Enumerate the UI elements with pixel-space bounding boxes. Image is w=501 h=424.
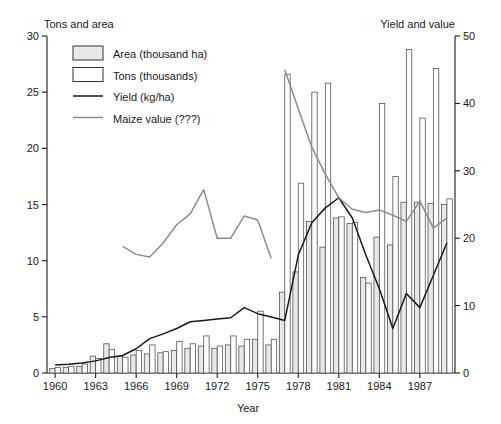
- bar-tons: [82, 364, 87, 373]
- bar-area: [387, 245, 392, 373]
- x-tick-label: 1966: [124, 380, 148, 392]
- bar-tons: [244, 339, 249, 373]
- bar-tons: [420, 118, 425, 373]
- bar-tons: [136, 351, 141, 373]
- x-tick-label: 1960: [43, 380, 67, 392]
- bar-area: [266, 345, 271, 373]
- legend-item-label: Yield (kg/ha): [113, 91, 174, 103]
- bar-area: [401, 202, 406, 373]
- bar-area: [131, 355, 136, 373]
- bar-tons: [231, 336, 236, 373]
- bar-tons: [352, 222, 357, 373]
- bar-area: [90, 356, 95, 373]
- right-tick-label: 10: [463, 300, 475, 312]
- bar-area: [360, 278, 365, 373]
- bar-area: [225, 345, 230, 373]
- bar-area: [158, 353, 163, 373]
- right-tick-label: 40: [463, 97, 475, 109]
- bar-tons: [393, 176, 398, 373]
- x-tick-label: 1984: [367, 380, 391, 392]
- bar-tons: [379, 103, 384, 373]
- right-tick-label: 20: [463, 232, 475, 244]
- bar-area: [144, 354, 149, 373]
- bar-area: [63, 367, 68, 373]
- x-tick-label: 1975: [246, 380, 270, 392]
- left-tick-label: 0: [33, 367, 39, 379]
- bar-tons: [447, 199, 452, 373]
- bar-tons: [325, 83, 330, 373]
- right-tick-label: 0: [463, 367, 469, 379]
- left-tick-label: 5: [33, 311, 39, 323]
- bar-area: [198, 346, 203, 373]
- bar-area: [333, 218, 338, 373]
- bar-area: [347, 224, 352, 373]
- bar-area: [212, 348, 217, 373]
- bar-tons: [339, 217, 344, 373]
- bar-tons: [190, 344, 195, 373]
- bar-area: [185, 348, 190, 373]
- legend-item-label: Maize value (???): [113, 113, 200, 125]
- bar-tons: [123, 357, 128, 373]
- bar-tons: [217, 346, 222, 373]
- bar-tons: [55, 367, 60, 373]
- x-tick-label: 1972: [205, 380, 229, 392]
- x-tick-label: 1969: [164, 380, 188, 392]
- bar-area: [414, 202, 419, 373]
- bar-tons: [163, 352, 168, 373]
- bar-tons: [69, 366, 74, 373]
- bar-area: [279, 292, 284, 373]
- bar-tons: [150, 345, 155, 373]
- maize-statistics-chart: Tons and area Yield and value Year 05101…: [0, 0, 501, 424]
- x-tick-label: 1978: [286, 380, 310, 392]
- bar-tons: [406, 49, 411, 373]
- left-tick-label: 10: [27, 255, 39, 267]
- x-tick-label: 1981: [327, 380, 351, 392]
- right-tick-label: 50: [463, 30, 475, 42]
- bar-area: [320, 247, 325, 373]
- bar-area: [306, 221, 311, 373]
- left-tick-label: 20: [27, 142, 39, 154]
- bar-area: [374, 237, 379, 373]
- x-tick-label: 1963: [83, 380, 107, 392]
- bar-tons: [177, 342, 182, 373]
- bar-area: [77, 366, 82, 373]
- x-tick-label: 1987: [408, 380, 432, 392]
- bar-tons: [258, 311, 263, 373]
- bar-tons: [285, 74, 290, 373]
- bar-area: [441, 205, 446, 374]
- bar-tons: [204, 336, 209, 373]
- bar-tons: [312, 92, 317, 373]
- bar-area: [117, 356, 122, 373]
- legend-item-label: Tons (thousands): [113, 70, 197, 82]
- x-axis-title: Year: [237, 402, 260, 414]
- legend-swatch-tons-icon: [73, 68, 103, 82]
- legend-item-label: Area (thousand ha): [113, 48, 207, 60]
- left-tick-label: 30: [27, 30, 39, 42]
- chart-container: Tons and area Yield and value Year 05101…: [0, 0, 501, 424]
- bar-area: [252, 339, 257, 373]
- bar-tons: [433, 69, 438, 373]
- bar-area: [239, 346, 244, 373]
- bar-tons: [271, 339, 276, 373]
- bar-tons: [109, 349, 114, 373]
- legend-swatch-area-icon: [73, 46, 103, 60]
- bar-tons: [366, 283, 371, 373]
- left-tick-label: 25: [27, 86, 39, 98]
- right-tick-label: 30: [463, 165, 475, 177]
- left-axis-title: Tons and area: [44, 18, 115, 30]
- right-axis-title: Yield and value: [380, 18, 455, 30]
- bar-tons: [298, 183, 303, 373]
- bar-area: [293, 272, 298, 373]
- bar-area: [50, 369, 55, 373]
- left-tick-label: 15: [27, 199, 39, 211]
- bar-area: [171, 351, 176, 373]
